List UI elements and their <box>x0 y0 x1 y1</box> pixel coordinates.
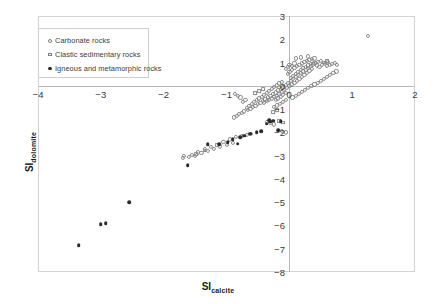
legend-item[interactable]: Carbonate rocks <box>45 34 148 47</box>
legend: Carbonate rocksClastic sedimentary rocks… <box>38 28 149 78</box>
data-point <box>279 119 283 123</box>
legend-item[interactable]: Igneous and metamorphic rocks <box>45 62 148 75</box>
data-point <box>127 200 131 204</box>
x-tick-label: 0 <box>287 89 292 100</box>
y-axis-title-subscript: dolomite <box>30 132 37 163</box>
filled-circle-marker-icon <box>45 67 55 70</box>
y-tick-label: −4 <box>271 173 285 184</box>
y-tick-label: −1 <box>271 104 285 115</box>
legend-item[interactable]: Clastic sedimentary rocks <box>45 48 148 61</box>
data-point <box>206 142 210 146</box>
data-point <box>271 119 275 123</box>
x-tick-label: −2 <box>158 89 169 100</box>
x-tick-label: 2 <box>412 89 417 100</box>
data-point <box>257 89 261 93</box>
data-point <box>77 243 81 247</box>
x-axis-title: SIcalcite <box>202 281 235 294</box>
y-tick-label: −5 <box>271 197 285 208</box>
data-point <box>239 135 243 139</box>
legend-item-label: Igneous and metamorphic rocks <box>55 64 162 73</box>
legend-item-label: Clastic sedimentary rocks <box>55 50 140 59</box>
x-tick-label: 1 <box>349 89 354 100</box>
data-point <box>236 142 240 146</box>
data-point <box>265 122 269 126</box>
y-axis-title: SIdolomite <box>24 132 37 172</box>
scatter-chart: −4−3−2−1012 3210−1−2−3−4−5−6−7−8 SIcalci… <box>0 0 436 304</box>
data-point <box>242 134 246 138</box>
y-tick-label: −8 <box>271 267 285 278</box>
data-point <box>104 221 108 225</box>
data-point <box>99 222 103 226</box>
data-point <box>325 59 329 63</box>
y-tick-label: 3 <box>271 11 285 22</box>
x-axis-title-subscript: calcite <box>211 287 234 294</box>
y-tick-label: −7 <box>271 243 285 254</box>
open-square-marker-icon <box>45 53 55 57</box>
data-point <box>255 131 259 135</box>
y-tick-label: −6 <box>271 220 285 231</box>
y-tick-label: 1 <box>271 57 285 68</box>
data-point <box>203 149 207 153</box>
data-point <box>261 87 265 91</box>
data-point <box>217 143 221 147</box>
data-point <box>226 140 230 144</box>
data-point <box>267 118 271 122</box>
y-tick-label: 0 <box>271 80 285 91</box>
x-tick-label: −1 <box>221 89 232 100</box>
data-point <box>186 163 190 167</box>
data-point <box>259 129 263 133</box>
y-tick-label: −2 <box>271 127 285 138</box>
y-tick-label: 2 <box>271 34 285 45</box>
data-point <box>249 132 253 136</box>
legend-item-label: Carbonate rocks <box>55 36 110 45</box>
data-point <box>194 152 198 156</box>
data-point <box>231 138 235 142</box>
y-axis-zero-line <box>289 16 290 272</box>
open-circle-marker-icon <box>45 39 55 43</box>
x-tick-label: −3 <box>95 89 106 100</box>
x-axis-zero-line <box>38 86 415 87</box>
y-axis-title-base: SI <box>24 163 35 172</box>
y-tick-label: −3 <box>271 150 285 161</box>
x-tick-label: −4 <box>32 89 43 100</box>
data-point <box>253 91 257 95</box>
